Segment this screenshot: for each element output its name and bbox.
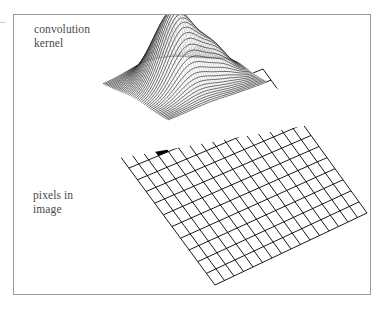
label-convolution-kernel: convolution kernel [34,22,90,50]
label-pixels-in-image: pixels in image [33,188,73,216]
figure-canvas: convolution kernel pixels in image [0,0,390,314]
